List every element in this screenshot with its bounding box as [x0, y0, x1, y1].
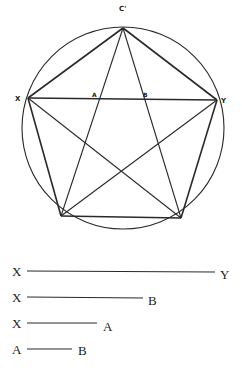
- label-y: Y: [220, 97, 227, 105]
- segment-xb: X B: [12, 290, 157, 308]
- pentagram-diagram: C' X Y A B X Y X B X A A B: [0, 0, 242, 375]
- pentagram-diagonals: [28, 28, 217, 218]
- segment-xy-line: [27, 271, 215, 272]
- diagonal-left-bottomright: [28, 98, 181, 218]
- label-a: A: [92, 91, 97, 98]
- segment-xb-line: [27, 297, 143, 298]
- segment-xb-start-label: X: [12, 290, 22, 305]
- segment-xy: X Y: [12, 264, 230, 282]
- label-x: X: [15, 95, 21, 103]
- segment-ab-end-label: B: [78, 343, 87, 358]
- segment-ab-start-label: A: [12, 342, 22, 357]
- diagonal-top-bottomleft: [61, 28, 123, 216]
- edge-bottom: [61, 216, 181, 218]
- segment-xa-end-label: A: [103, 319, 113, 334]
- segment-xy-start-label: X: [12, 264, 22, 279]
- edge-right-bottomright: [181, 100, 217, 218]
- edge-bottomleft-left: [28, 98, 61, 216]
- diagonal-right-bottomleft: [61, 100, 217, 216]
- label-c-prime: C': [119, 5, 126, 13]
- diagonal-xy: [28, 98, 217, 100]
- segment-xa: X A: [12, 316, 113, 334]
- circumscribed-circle: [22, 27, 224, 229]
- segment-xy-end-label: Y: [220, 267, 230, 282]
- label-b: B: [143, 91, 148, 98]
- segment-xb-end-label: B: [148, 293, 157, 308]
- pentagon-edges: [28, 28, 217, 218]
- diagonal-top-bottomright: [123, 28, 181, 218]
- segment-xa-start-label: X: [12, 316, 22, 331]
- segment-ab: A B: [12, 342, 87, 358]
